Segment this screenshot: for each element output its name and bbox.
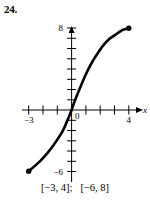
- exercise-figure: 24.: [0, 0, 150, 202]
- x-axis-group: [22, 106, 143, 115]
- origin-label: 0: [75, 111, 80, 121]
- x-axis-label: x: [142, 105, 147, 115]
- curve-endpoint-right: [126, 26, 131, 31]
- x-axis-arrowhead: [136, 107, 143, 113]
- y-tick-label--6: −6: [53, 167, 63, 177]
- domain-range-caption: [−3, 4]; [−6, 8]: [0, 182, 150, 193]
- x-tick-label--3: −3: [24, 115, 34, 125]
- curve-group: [26, 26, 132, 174]
- y-tick-label-8: 8: [59, 23, 64, 33]
- axis-labels-group: −3 4 8 −6 0 x: [24, 23, 147, 177]
- graph-container: −3 4 8 −6 0 x: [0, 12, 150, 182]
- function-curve: [29, 28, 129, 171]
- y-axis-arrowhead: [69, 26, 75, 33]
- coordinate-graph: −3 4 8 −6 0 x: [0, 12, 150, 182]
- x-tick-label-4: 4: [127, 115, 132, 125]
- curve-endpoint-left: [26, 169, 31, 174]
